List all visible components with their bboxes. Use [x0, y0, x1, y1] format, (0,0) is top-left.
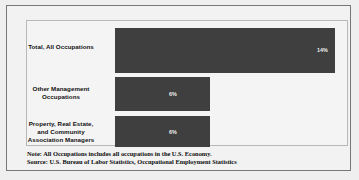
category-label-line: Total, All Occupations	[9, 43, 113, 51]
bar-value-label: 6%	[169, 91, 177, 97]
category-label: Property, Real Estate, and Community Ass…	[9, 120, 113, 145]
footnote-note: Note: All Occupations includes all occup…	[27, 150, 343, 158]
bar-value-label: 6%	[169, 129, 177, 135]
category-label-line: Other Management	[9, 85, 113, 93]
category-label-line: and Community	[9, 128, 113, 136]
category-label-line: Occupations	[9, 93, 113, 101]
bar-value-label: 14%	[317, 47, 328, 53]
chart-screenshot: Total, All Occupations 14% Other Managem…	[0, 0, 359, 180]
bar-series: Total, All Occupations 14% Other Managem…	[27, 21, 349, 147]
bar[interactable]: 6%	[115, 116, 210, 147]
footnote-source: Source: U.S. Bureau of Labor Statistics,…	[27, 158, 343, 166]
bar[interactable]: 14%	[115, 28, 335, 73]
category-label-line: Property, Real Estate,	[9, 120, 113, 128]
bar-row: Property, Real Estate, and Community Ass…	[27, 116, 349, 150]
bar-row: Total, All Occupations 14%	[27, 28, 349, 73]
bar-row: Other Management Occupations 6%	[27, 77, 349, 111]
category-label-line: Association Managers	[9, 136, 113, 144]
plot-area: Total, All Occupations 14% Other Managem…	[26, 20, 348, 146]
category-label: Total, All Occupations	[9, 43, 113, 51]
chart-outer-frame: Total, All Occupations 14% Other Managem…	[6, 5, 351, 171]
footnote-block: Note: All Occupations includes all occup…	[27, 150, 343, 167]
bar[interactable]: 6%	[115, 77, 210, 111]
category-label: Other Management Occupations	[9, 85, 113, 101]
